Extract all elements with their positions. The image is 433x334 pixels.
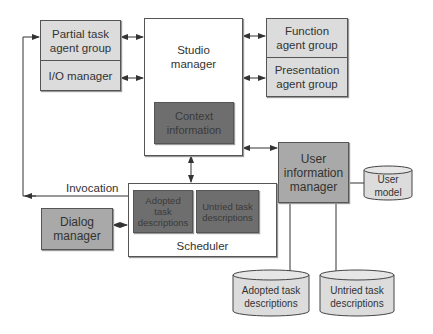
scheduler-adopted-label: Adopted task descriptions (136, 195, 190, 228)
io-manager-label: I/O manager (49, 69, 113, 83)
function-agent-group: Function agent group (266, 18, 348, 58)
function-agent-label: Function agent group (274, 24, 340, 52)
studio-manager-label: Studio manager (164, 43, 224, 71)
partial-task-agent-group: Partial task agent group (40, 20, 121, 61)
presentation-agent-group: Presentation agent group (266, 57, 348, 97)
invocation-label: Invocation (66, 181, 118, 195)
scheduler-label: Scheduler (177, 239, 229, 253)
scheduler-untried-tasks: Untried task descriptions (196, 190, 259, 233)
presentation-agent-label: Presentation agent group (271, 63, 343, 91)
db-untried-label: Untried task descriptions (324, 285, 390, 310)
dialog-manager-label: Dialog manager (52, 215, 102, 243)
context-information-label: Context information (164, 109, 224, 137)
partial-task-label: Partial task agent group (49, 27, 113, 55)
dialog-manager: Dialog manager (41, 208, 113, 250)
context-information: Context information (154, 102, 234, 144)
io-manager: I/O manager (40, 60, 121, 91)
db-adopted-label: Adopted task descriptions (238, 285, 304, 310)
scheduler-adopted-tasks: Adopted task descriptions (133, 190, 193, 233)
user-model-label: User model (366, 174, 410, 199)
user-information-manager: User information manager (278, 142, 349, 203)
scheduler-untried-label: Untried task descriptions (199, 201, 257, 223)
user-info-manager-label: User information manager (283, 152, 345, 194)
